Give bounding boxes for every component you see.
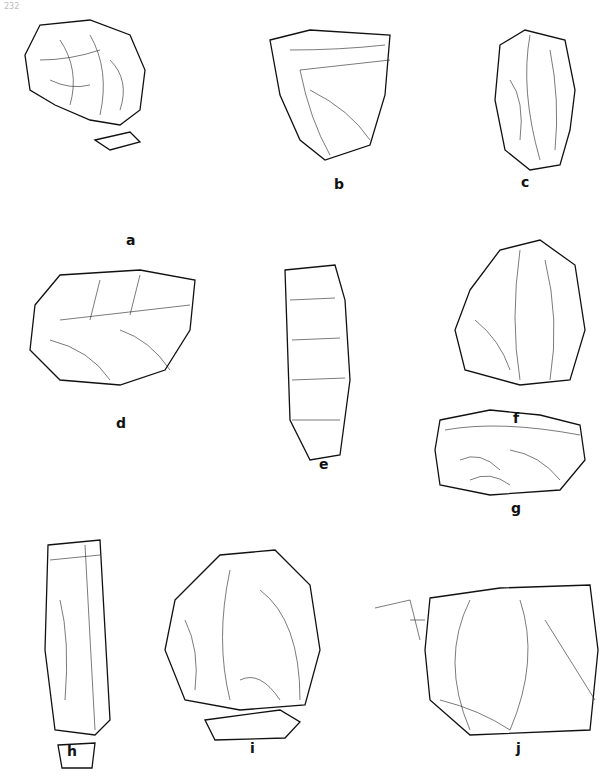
artifact-f [455, 240, 585, 385]
artifact-c [495, 30, 575, 170]
artifact-g [435, 410, 585, 495]
panel-label-c: c [521, 174, 529, 190]
artifact-i [165, 550, 320, 740]
artifact-a [25, 20, 145, 150]
panel-label-g: g [511, 500, 521, 516]
panel-label-e: e [319, 456, 329, 472]
artifact-drawings [0, 0, 610, 779]
panel-label-j: j [516, 740, 521, 756]
panel-label-h: h [67, 743, 77, 759]
artifact-e [285, 265, 350, 460]
artifact-h [45, 540, 110, 768]
panel-label-f: f [513, 410, 519, 426]
panel-label-b: b [334, 176, 344, 192]
panel-label-d: d [116, 415, 126, 431]
artifact-j [375, 585, 598, 735]
panel-label-i: i [250, 740, 255, 756]
artifact-d [30, 270, 195, 385]
panel-label-a: a [126, 232, 135, 248]
artifact-b [270, 30, 390, 160]
